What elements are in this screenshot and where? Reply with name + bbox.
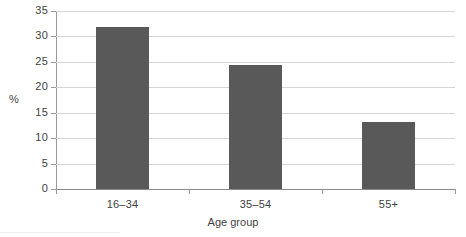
bar-chart: % 05101520253035 16–3435–5455+ Age group <box>0 0 466 237</box>
y-tick-mark <box>51 87 56 88</box>
y-tick-label: 25 <box>2 56 48 67</box>
y-tick-mark <box>51 36 56 37</box>
bar <box>229 65 282 189</box>
y-tick-mark <box>51 62 56 63</box>
x-tick-label: 35–54 <box>189 198 322 210</box>
y-tick-label: 10 <box>2 132 48 143</box>
y-tick-label: 30 <box>2 30 48 41</box>
y-tick-label: 5 <box>2 158 48 169</box>
y-tick-mark <box>51 138 56 139</box>
y-tick-mark <box>51 164 56 165</box>
y-tick-mark <box>51 11 56 12</box>
x-tick-mark <box>455 189 456 194</box>
bottom-edge-rule <box>0 232 120 233</box>
x-tick-label: 16–34 <box>56 198 189 210</box>
y-tick-label: 35 <box>2 5 48 16</box>
x-axis-title: Age group <box>0 216 466 228</box>
y-axis-title: % <box>9 94 19 105</box>
bar <box>96 27 149 189</box>
axis-baseline <box>56 189 455 190</box>
x-tick-mark <box>189 189 190 194</box>
y-tick-label: 0 <box>2 183 48 194</box>
bar <box>362 122 415 189</box>
x-tick-mark <box>322 189 323 194</box>
y-tick-label: 15 <box>2 107 48 118</box>
y-tick-label: 20 <box>2 81 48 92</box>
y-tick-mark <box>51 113 56 114</box>
x-tick-label: 55+ <box>322 198 455 210</box>
gridline <box>56 11 455 12</box>
x-tick-mark <box>56 189 57 194</box>
